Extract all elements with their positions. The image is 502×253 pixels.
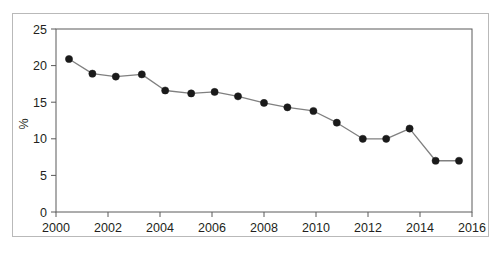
y-tick-label: 20 (33, 59, 47, 73)
x-axis-ticks (56, 212, 472, 217)
data-point-marker (89, 70, 96, 77)
data-point-marker (333, 119, 340, 126)
y-tick-label: 10 (33, 132, 47, 146)
data-point-marker (455, 157, 462, 164)
data-point-marker (310, 107, 317, 114)
data-point-marker (359, 135, 366, 142)
x-tick-label: 2008 (250, 221, 278, 235)
y-tick-label: 25 (33, 23, 47, 37)
x-tick-label: 2016 (458, 221, 486, 235)
y-axis-tick-labels: 0510152025 (33, 23, 47, 220)
y-axis-title: % (17, 118, 31, 129)
x-tick-label: 2000 (42, 221, 70, 235)
x-axis-tick-labels: 200020022004200620082010201220142016 (42, 221, 486, 235)
data-point-marker (138, 71, 145, 78)
data-point-marker (383, 135, 390, 142)
data-point-marker (234, 93, 241, 100)
plot-frame-rect (56, 29, 472, 212)
data-point-marker (188, 90, 195, 97)
plot-area-frame (56, 29, 472, 212)
y-axis-title-group: % (17, 118, 31, 129)
data-point-marker (211, 88, 218, 95)
data-point-marker (65, 55, 72, 62)
x-tick-label: 2010 (302, 221, 330, 235)
y-tick-label: 15 (33, 96, 47, 110)
data-point-marker (112, 73, 119, 80)
chart-figure: 0510152025 20002002200420062008201020122… (0, 0, 502, 253)
data-point-marker (162, 87, 169, 94)
x-tick-label: 2002 (94, 221, 122, 235)
y-tick-label: 0 (40, 206, 47, 220)
x-tick-label: 2004 (146, 221, 174, 235)
y-axis-ticks (51, 29, 56, 212)
data-point-marker (284, 104, 291, 111)
data-point-marker (260, 99, 267, 106)
x-tick-label: 2006 (198, 221, 226, 235)
data-point-marker (406, 125, 413, 132)
x-tick-label: 2012 (354, 221, 382, 235)
line-chart: 0510152025 20002002200420062008201020122… (0, 0, 502, 253)
y-tick-label: 5 (40, 169, 47, 183)
data-point-marker (432, 157, 439, 164)
x-tick-label: 2014 (406, 221, 434, 235)
